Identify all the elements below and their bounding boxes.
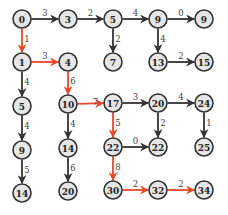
edge-weight-label: 4 <box>24 121 29 131</box>
graph-node: 1 <box>13 53 31 71</box>
graph-node: 0 <box>13 10 31 28</box>
graph-node: 9 <box>149 10 167 28</box>
graph-node: 32 <box>149 181 167 199</box>
graph-canvas: 3240242136445746345210822 03599147131551… <box>0 0 228 215</box>
edge-weight-label: 5 <box>115 118 120 128</box>
node-label: 9 <box>19 146 25 156</box>
edge-weight-label: 0 <box>133 136 138 146</box>
node-label: 9 <box>201 15 207 25</box>
edge-weight-label: 2 <box>160 118 165 128</box>
edge-weight-label: 4 <box>178 92 183 102</box>
node-label: 14 <box>16 189 29 199</box>
graph-node: 7 <box>104 53 122 71</box>
highlighted-edge-10-to-17 <box>77 103 103 104</box>
node-label: 22 <box>152 143 165 153</box>
node-label: 10 <box>62 100 75 110</box>
node-label: 30 <box>107 186 120 196</box>
node-label: 20 <box>152 99 165 109</box>
graph-node: 24 <box>195 94 213 112</box>
edge-weight-label: 8 <box>115 162 120 172</box>
graph-node: 22 <box>104 138 122 156</box>
graph-node: 9 <box>13 141 31 159</box>
node-label: 22 <box>107 143 120 153</box>
graph-node: 5 <box>13 97 31 115</box>
node-label: 25 <box>198 143 211 153</box>
edge-weight-label: 4 <box>160 34 165 44</box>
edge-weight-label: 2 <box>178 179 183 189</box>
node-label: 5 <box>110 15 116 25</box>
graph-node: 13 <box>149 53 167 71</box>
edge-weight-label: 2 <box>88 8 93 18</box>
graph-node: 4 <box>59 53 77 71</box>
graph-node: 14 <box>13 184 31 202</box>
node-label: 20 <box>62 187 75 197</box>
edge-weight-label: 2 <box>115 34 120 44</box>
graph-node: 34 <box>195 181 213 199</box>
edge-weight-label: 1 <box>24 34 29 44</box>
node-label: 13 <box>152 58 165 68</box>
edge-weight-label: 5 <box>24 165 29 175</box>
graph-node: 9 <box>195 10 213 28</box>
node-label: 17 <box>107 99 120 109</box>
node-label: 3 <box>65 15 71 25</box>
node-label: 5 <box>19 102 25 112</box>
node-label: 14 <box>62 144 75 154</box>
graph-node: 5 <box>104 10 122 28</box>
graph-node: 10 <box>59 95 77 113</box>
edge-weight-label: 7 <box>93 97 98 107</box>
edge-weight-label: 1 <box>206 118 211 128</box>
graph-node: 25 <box>195 138 213 156</box>
graph-node: 20 <box>149 94 167 112</box>
node-label: 9 <box>155 15 161 25</box>
node-label: 24 <box>198 99 211 109</box>
graph-node: 22 <box>149 138 167 156</box>
graph-node: 20 <box>59 182 77 200</box>
node-label: 15 <box>198 58 211 68</box>
edge-weight-label: 3 <box>42 51 47 61</box>
edge-weight-label: 3 <box>133 92 138 102</box>
graph-node: 3 <box>59 10 77 28</box>
node-label: 34 <box>198 186 211 196</box>
edge-weight-label: 6 <box>70 76 75 86</box>
graph-node: 17 <box>104 94 122 112</box>
node-label: 0 <box>19 15 25 25</box>
node-label: 4 <box>65 58 71 68</box>
graph-node: 14 <box>59 139 77 157</box>
edge-weight-label: 6 <box>70 163 75 173</box>
graph-diagram: 3240242136445746345210822 03599147131551… <box>0 0 228 215</box>
edge-weight-label: 4 <box>70 119 75 129</box>
edge-weight-label: 4 <box>24 77 29 87</box>
graph-node: 15 <box>195 53 213 71</box>
edge-weight-label: 4 <box>133 8 138 18</box>
edge-weight-label: 2 <box>133 179 138 189</box>
graph-node: 30 <box>104 181 122 199</box>
node-label: 1 <box>19 58 25 68</box>
node-label: 7 <box>110 58 116 68</box>
edge-weight-label: 0 <box>178 8 183 18</box>
edge-weight-label: 2 <box>178 51 183 61</box>
node-label: 32 <box>152 186 165 196</box>
edge-weight-label: 3 <box>42 8 47 18</box>
